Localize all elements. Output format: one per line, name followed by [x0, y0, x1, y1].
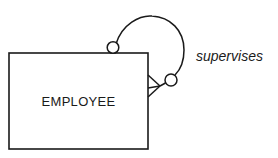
entity-employee[interactable]: EMPLOYEE: [9, 53, 148, 149]
optional-circle-icon: [165, 74, 177, 86]
connector-line: [160, 83, 166, 86]
optional-circle-icon: [107, 42, 119, 54]
entity-label: EMPLOYEE: [42, 94, 116, 109]
crows-foot-icon: [148, 75, 160, 97]
relationship-arc: [116, 16, 184, 75]
relationship-supervises[interactable]: supervises: [107, 16, 263, 97]
er-diagram-canvas: EMPLOYEE supervises: [0, 0, 278, 158]
relationship-label: supervises: [196, 48, 263, 64]
